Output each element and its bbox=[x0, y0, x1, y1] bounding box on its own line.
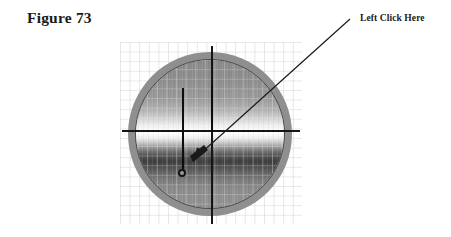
plumb-bob-target[interactable] bbox=[178, 169, 186, 177]
center-marker-line bbox=[211, 86, 213, 132]
figure-page: Figure 73 Left Click Here bbox=[0, 0, 451, 237]
grid-overlay-on-gauge-icon bbox=[135, 59, 285, 209]
circular-gauge bbox=[128, 52, 292, 216]
left-marker-line bbox=[182, 88, 184, 172]
left-click-here-label: Left Click Here bbox=[360, 13, 425, 23]
page-title: Figure 73 bbox=[27, 9, 92, 27]
gauge-inner-ring bbox=[135, 59, 285, 209]
vertical-axis bbox=[211, 46, 213, 224]
figure-illustration bbox=[120, 42, 302, 224]
